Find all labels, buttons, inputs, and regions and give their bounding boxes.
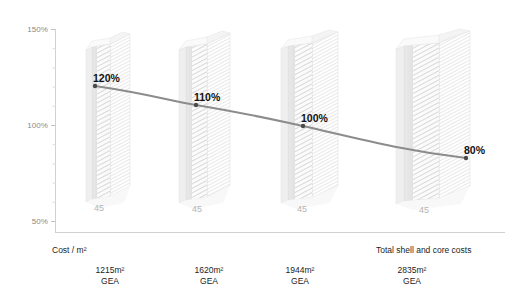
tower-4 — [396, 29, 470, 210]
category-unit-3: GEA — [291, 276, 309, 286]
y-tick-label-50: 50% — [18, 217, 48, 226]
category-unit-1: GEA — [101, 276, 119, 286]
category-label-2: 1620m² GEA — [159, 265, 259, 287]
category-unit-2: GEA — [200, 276, 218, 286]
category-area-4: 2835m² — [398, 265, 427, 275]
tower-1 — [83, 32, 130, 208]
chart-canvas: 150% 100% 50% 120% 110% 100% 80% 45 45 4… — [0, 0, 517, 302]
category-label-1: 1215m² GEA — [60, 265, 160, 287]
footer-left-label: Cost / m² — [52, 245, 86, 255]
data-point-2 — [194, 103, 198, 107]
data-label-3: 100% — [301, 112, 328, 124]
chart-svg — [0, 0, 517, 302]
footer-right-label: Total shell and core costs — [376, 245, 471, 255]
tower-base-value-1: 45 — [74, 203, 124, 213]
data-label-1: 120% — [93, 72, 120, 84]
data-point-3 — [301, 124, 305, 128]
tower-2 — [178, 31, 230, 209]
data-point-4 — [464, 156, 468, 160]
category-unit-4: GEA — [403, 276, 421, 286]
category-area-1: 1215m² — [96, 265, 125, 275]
tower-base-value-4: 45 — [399, 205, 449, 215]
data-label-4: 80% — [464, 144, 485, 156]
category-area-2: 1620m² — [195, 265, 224, 275]
axis-major-ticks — [51, 30, 56, 222]
y-tick-label-100: 100% — [18, 121, 48, 130]
data-point-1 — [93, 84, 97, 88]
category-area-3: 1944m² — [286, 265, 315, 275]
data-label-2: 110% — [194, 91, 220, 103]
category-label-4: 2835m² GEA — [362, 265, 462, 287]
y-tick-label-150: 150% — [18, 25, 48, 34]
tower-base-value-3: 45 — [277, 204, 327, 214]
tower-base-value-2: 45 — [172, 204, 222, 214]
category-label-3: 1944m² GEA — [250, 265, 350, 287]
